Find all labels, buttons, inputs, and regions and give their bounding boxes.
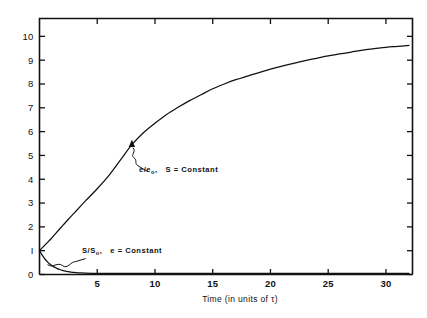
y-tick-label: 8 [28,78,33,89]
y-tick-label: 5 [28,150,33,161]
y-tick-label: 6 [28,126,33,137]
x-tick-label: 15 [207,278,218,289]
y-tick-label: 4 [28,174,33,185]
y-tick-label: 7 [28,102,33,113]
y-tick-label: 3 [28,197,33,208]
figure-container: 0I2345678910 51015202530 e/eo,S = Consta… [0,0,427,318]
x-tick-label: 20 [265,278,276,289]
y-tick-label: 10 [23,31,34,42]
y-tick-label: I [31,245,34,256]
x-tick-label: 10 [149,278,160,289]
y-tick-label: 0 [28,269,33,280]
y-tick-label: 2 [28,221,33,232]
line-chart: 0I2345678910 51015202530 e/eo,S = Consta… [0,0,427,318]
x-tick-label: 25 [323,278,334,289]
x-tick-label: 30 [380,278,391,289]
y-tick-label: 9 [28,55,33,66]
annotation-e-over-e0: e/eo,S = Constant [139,165,218,175]
annotation-s-over-s0: S/So,e = Constant [82,246,162,256]
x-axis-title: Time (in units of τ) [202,294,278,304]
x-tick-label: 5 [94,278,100,289]
